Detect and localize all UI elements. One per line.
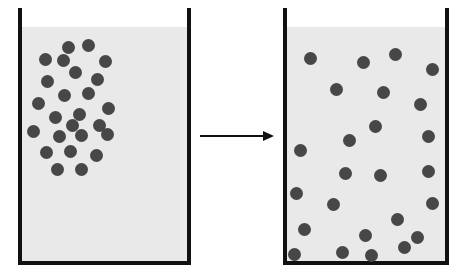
- diffusion-diagram: [0, 0, 466, 280]
- arrow-head-icon: [263, 131, 274, 141]
- process-arrow: [0, 0, 466, 280]
